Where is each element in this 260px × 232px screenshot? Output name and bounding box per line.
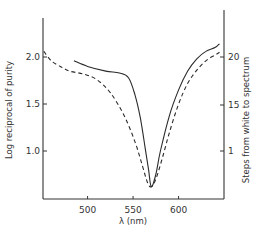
x-tick-label: 600 (170, 205, 187, 215)
y-right-ticks: 11520 (220, 52, 240, 156)
solid-series-line (74, 44, 220, 187)
y-right-tick-label: 20 (228, 52, 240, 62)
x-axis-title: λ (nm) (119, 216, 147, 226)
chart: 500550600 1.01.52.0 11520 λ (nm) Log rec… (0, 0, 260, 232)
x-tick-label: 500 (79, 205, 96, 215)
y-axis-title: Log reciprocal of purity (4, 61, 14, 159)
y-tick-label: 1.5 (26, 99, 40, 109)
x-tick-label: 550 (124, 205, 141, 215)
series (44, 44, 220, 187)
y-ticks: 1.01.52.0 (26, 52, 47, 156)
y-tick-label: 2.0 (26, 52, 41, 62)
y-tick-label: 1.0 (26, 146, 41, 156)
y-right-axis-title: Steps from white to spectrum (241, 57, 251, 183)
y-right-tick-label: 1 (228, 146, 234, 156)
y-right-tick-label: 15 (228, 100, 239, 110)
dashed-series-line (44, 51, 220, 186)
axes (43, 10, 224, 199)
